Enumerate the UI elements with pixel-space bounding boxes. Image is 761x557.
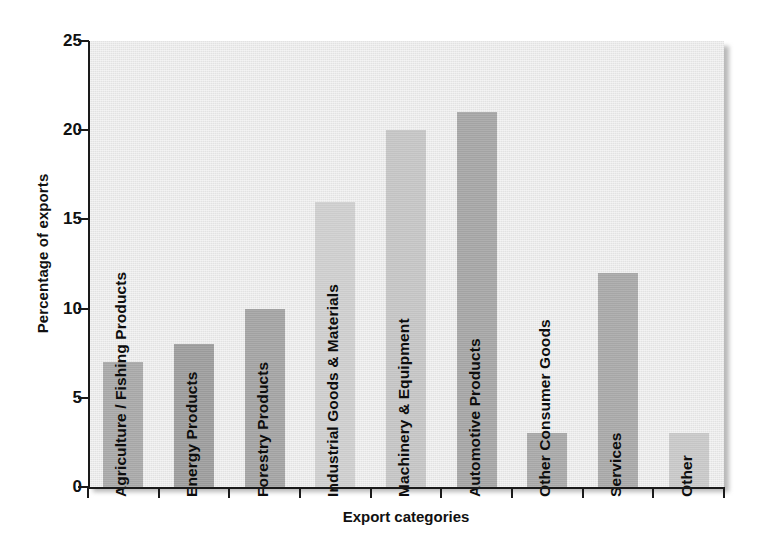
y-axis-tick-labels: 0510152025 [46,0,82,557]
x-axis-title: Export categories [88,508,724,525]
bar-label: Forestry Products [254,362,272,497]
bar-label: Machinery & Equipment [395,318,413,497]
y-tick-label: 25 [48,32,82,49]
y-tick-label: 15 [48,210,82,227]
bar-label: Other Consumer Goods [536,319,554,497]
bar-label: Automotive Products [466,338,484,497]
bar-label: Other [678,455,696,497]
bar-label: Agriculture / Fishing Products [112,272,130,497]
y-tick-label: 5 [48,389,82,406]
y-tick-label: 10 [48,300,82,317]
bar-label: Energy Products [183,371,201,497]
y-tick-label: 20 [48,121,82,138]
bar-chart: Percentage of exports 0510152025 Agricul… [0,0,761,557]
y-axis-line [88,41,90,488]
plot-area: Agriculture / Fishing ProductsEnergy Pro… [88,41,724,487]
x-axis-line [88,487,725,489]
y-tick-label: 0 [48,478,82,495]
bar-label: Industrial Goods & Materials [324,284,342,497]
